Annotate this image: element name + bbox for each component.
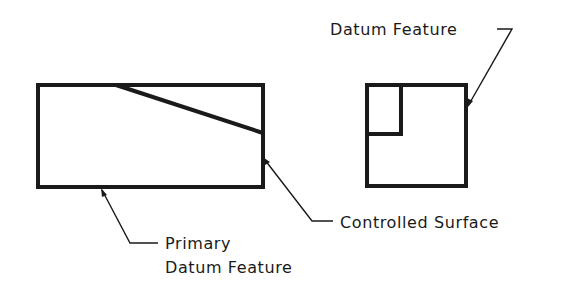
arrowhead-icon <box>264 158 270 165</box>
front-view <box>38 85 263 187</box>
label-primary: Primary <box>165 234 231 253</box>
side-view <box>367 85 466 186</box>
leader-line <box>265 160 333 221</box>
leader-line <box>102 190 158 243</box>
side-view-inner-step <box>367 85 401 134</box>
label-primary-datum-feature: Datum Feature <box>165 258 292 277</box>
controlled-surface-leader <box>264 158 333 221</box>
controlled-surface-edge <box>116 85 263 133</box>
arrowhead-icon <box>101 188 107 197</box>
drawing-canvas: Datum Feature Controlled Surface Primary… <box>0 0 566 290</box>
datum-feature-leader <box>467 29 512 108</box>
leader-line <box>468 29 512 106</box>
label-datum-feature: Datum Feature <box>330 20 457 39</box>
label-controlled-surface: Controlled Surface <box>340 213 499 232</box>
primary-datum-leader <box>101 188 158 243</box>
front-view-outline <box>38 85 263 187</box>
